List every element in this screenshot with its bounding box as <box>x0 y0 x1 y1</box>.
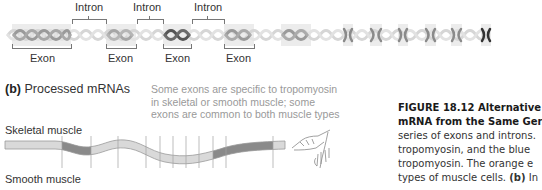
note-line: in skeletal or smooth muscle; some <box>151 96 340 109</box>
intron-label: Intron <box>194 1 222 13</box>
intron-bracket-notch <box>149 16 150 19</box>
figure-caption: FIGURE 18.12 Alternative mRNA from the S… <box>398 101 542 185</box>
exon-bracket <box>106 44 137 49</box>
dna-helix-icon <box>0 24 497 46</box>
panel-b-title-text: Processed mRNAs <box>24 82 130 96</box>
intron-label: Intron <box>75 1 103 13</box>
intron-bracket <box>72 19 107 24</box>
exon-label: Exon <box>165 52 190 64</box>
exon-specificity-note: Some exons are specific to tropomyosin i… <box>151 83 340 121</box>
caption-line: series of exons and introns. <box>398 129 542 143</box>
note-line: Some exons are specific to tropomyosin <box>151 83 340 96</box>
exon-bracket <box>224 44 255 49</box>
caption-line: tropomyosin, and the blue <box>398 143 542 157</box>
caption-heading: FIGURE 18.12 Alternative <box>398 101 542 115</box>
exon-bracket <box>12 44 72 49</box>
exon-bracket <box>163 44 192 49</box>
caption-line: tropomyosin. The orange e <box>398 157 542 171</box>
caption-text: types of muscle cells. <box>398 172 506 183</box>
pointing-hand-icon <box>290 128 340 170</box>
exon-label: Exon <box>226 52 251 64</box>
skeletal-mrna-strip <box>0 136 300 168</box>
caption-heading: mRNA from the Same Ger <box>398 115 542 129</box>
exon-label: Exon <box>108 52 133 64</box>
panel-b-letter: (b) <box>5 82 21 96</box>
exon-label: Exon <box>30 52 55 64</box>
intron-bracket-notch <box>207 16 208 19</box>
intron-label: Intron <box>133 1 161 13</box>
intron-bracket-notch <box>88 16 89 19</box>
intron-bracket <box>192 19 225 24</box>
skeletal-muscle-label: Skeletal muscle <box>5 124 82 136</box>
intron-bracket <box>137 19 164 24</box>
caption-part-b: (b) <box>509 172 525 183</box>
panel-b-title: (b) Processed mRNAs <box>5 82 130 96</box>
note-line: exons are common to both muscle types <box>151 108 340 121</box>
smooth-muscle-label: Smooth muscle <box>5 173 81 185</box>
caption-line: types of muscle cells. (b) In <box>398 171 542 185</box>
caption-tail: In <box>526 172 538 183</box>
